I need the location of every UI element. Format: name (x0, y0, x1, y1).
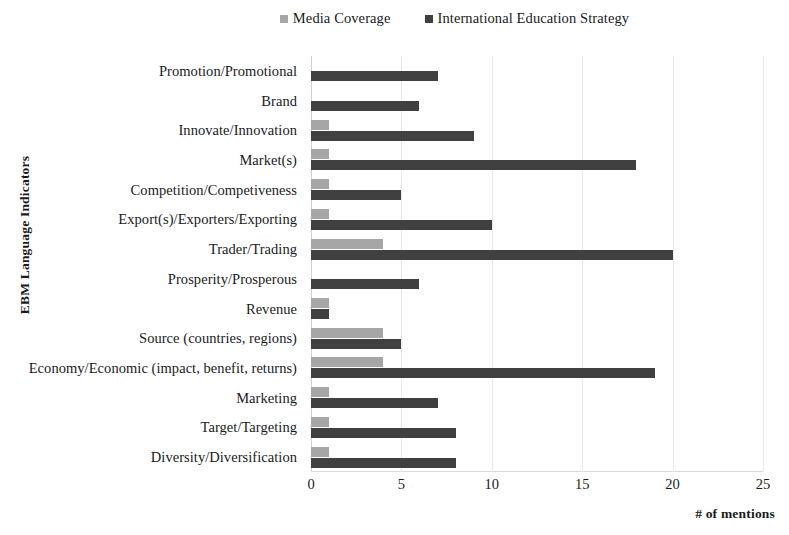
bar-group (311, 383, 763, 413)
x-tick-label-25: 25 (756, 476, 771, 493)
bar-international-education-strategy (311, 458, 456, 468)
bar-media-coverage (311, 387, 329, 397)
legend-label-international-education-strategy: International Education Strategy (438, 10, 630, 27)
category-label: Trader/Trading (209, 242, 297, 257)
x-axis-tick-labels: 0510152025 (311, 476, 763, 498)
bar-international-education-strategy (311, 428, 456, 438)
gridline-25 (763, 56, 764, 472)
bar-international-education-strategy (311, 368, 655, 378)
category-label: Market(s) (239, 153, 297, 168)
bar-international-education-strategy (311, 398, 438, 408)
category-label: Competition/Competiveness (131, 183, 297, 198)
bar-group (311, 234, 763, 264)
legend-swatch-international-education-strategy (425, 15, 433, 23)
x-axis-title: # of mentions (695, 506, 775, 522)
legend-item-international-education-strategy: International Education Strategy (425, 10, 630, 27)
bar-international-education-strategy (311, 101, 419, 111)
bar-international-education-strategy (311, 250, 673, 260)
x-tick-label-0: 0 (307, 476, 314, 493)
y-axis-category-labels: Promotion/PromotionalBrandInnovate/Innov… (0, 56, 305, 472)
bar-international-education-strategy (311, 220, 492, 230)
bar-media-coverage (311, 209, 329, 219)
bar-international-education-strategy (311, 309, 329, 319)
category-label: Export(s)/Exporters/Exporting (118, 212, 297, 227)
bar-group (311, 413, 763, 443)
category-label: Revenue (246, 302, 297, 317)
category-label: Marketing (236, 391, 297, 406)
bar-group (311, 264, 763, 294)
bar-international-education-strategy (311, 71, 438, 81)
bar-international-education-strategy (311, 190, 401, 200)
x-tick-label-15: 15 (575, 476, 590, 493)
bar-group (311, 294, 763, 324)
category-label: Promotion/Promotional (159, 64, 297, 79)
bar-media-coverage (311, 417, 329, 427)
bar-group (311, 323, 763, 353)
bar-group (311, 86, 763, 116)
bar-international-education-strategy (311, 160, 636, 170)
bar-group (311, 145, 763, 175)
bar-media-coverage (311, 120, 329, 130)
category-label: Innovate/Innovation (178, 123, 297, 138)
bar-international-education-strategy (311, 131, 474, 141)
bar-media-coverage (311, 357, 383, 367)
bar-group (311, 353, 763, 383)
legend-label-media-coverage: Media Coverage (293, 10, 391, 27)
bar-media-coverage (311, 447, 329, 457)
bar-media-coverage (311, 239, 383, 249)
bar-media-coverage (311, 328, 383, 338)
chart-legend: Media Coverage International Education S… (0, 10, 789, 27)
category-label: Brand (261, 94, 297, 109)
bar-media-coverage (311, 298, 329, 308)
legend-swatch-media-coverage (280, 15, 288, 23)
bar-international-education-strategy (311, 279, 419, 289)
bar-group (311, 205, 763, 235)
category-label: Economy/Economic (impact, benefit, retur… (29, 361, 297, 376)
bar-group (311, 115, 763, 145)
bar-group (311, 56, 763, 86)
bar-media-coverage (311, 179, 329, 189)
category-label: Prosperity/Prosperous (168, 272, 297, 287)
x-tick-label-5: 5 (398, 476, 405, 493)
bar-chart: Media Coverage International Education S… (0, 0, 789, 535)
category-label: Target/Targeting (201, 420, 297, 435)
category-label: Source (countries, regions) (139, 331, 297, 346)
category-label: Diversity/Diversification (151, 450, 297, 465)
plot-area (311, 56, 763, 472)
legend-item-media-coverage: Media Coverage (280, 10, 391, 27)
x-tick-label-20: 20 (665, 476, 680, 493)
bar-media-coverage (311, 149, 329, 159)
bar-group (311, 175, 763, 205)
bar-group (311, 442, 763, 472)
x-tick-label-10: 10 (485, 476, 500, 493)
bar-international-education-strategy (311, 339, 401, 349)
